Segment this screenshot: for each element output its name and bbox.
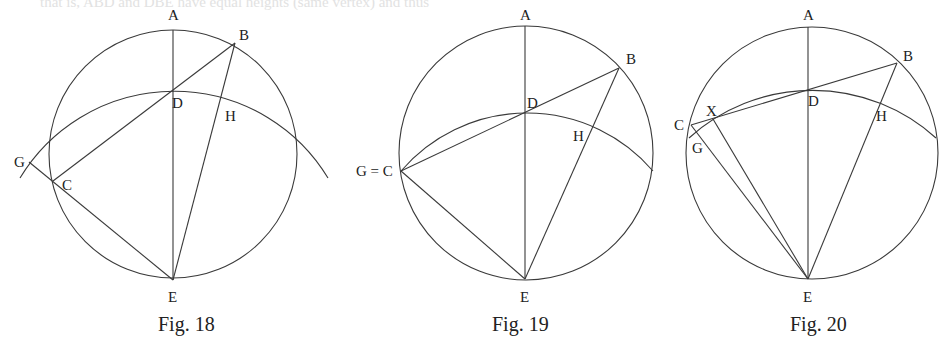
label-X: X <box>706 103 717 119</box>
caption: Fig. 18 <box>158 313 215 336</box>
line-BE <box>173 43 235 280</box>
label-E: E <box>803 289 812 305</box>
line-CE <box>691 125 808 279</box>
line-GE <box>29 162 173 280</box>
label-G: G <box>14 154 25 170</box>
label-E: E <box>520 289 529 305</box>
circle <box>399 26 653 280</box>
caption: Fig. 19 <box>492 313 549 336</box>
label-D: D <box>527 95 538 111</box>
label-A: A <box>520 7 531 23</box>
circle <box>686 27 938 279</box>
line-BE <box>808 63 897 279</box>
figure-18: A B D H G C E Fig. 18 <box>14 7 328 336</box>
line-BC <box>53 43 235 181</box>
label-C: C <box>674 117 684 133</box>
label-H: H <box>876 108 887 124</box>
label-G-equals-C: G = C <box>356 163 393 179</box>
label-A: A <box>803 7 814 23</box>
label-B: B <box>626 51 636 67</box>
label-C: C <box>62 177 72 193</box>
line-BE <box>525 68 619 279</box>
line-XE <box>713 119 808 279</box>
arc <box>401 113 653 171</box>
figure-19: A B D H G = C E Fig. 19 <box>356 7 653 336</box>
label-B: B <box>903 48 913 64</box>
label-D: D <box>172 95 183 111</box>
label-H: H <box>225 108 236 124</box>
line-BC <box>691 63 897 125</box>
label-G: G <box>692 140 703 156</box>
label-E: E <box>168 289 177 305</box>
label-H: H <box>573 128 584 144</box>
label-D: D <box>808 93 819 109</box>
label-B: B <box>239 27 249 43</box>
caption: Fig. 20 <box>790 313 847 336</box>
geometry-figures: A B D H G C E Fig. 18 A B D H G = C E Fi… <box>0 0 947 343</box>
label-A: A <box>168 7 179 23</box>
line-BC <box>401 68 619 171</box>
figure-20: A B D X H C G E Fig. 20 <box>674 7 938 336</box>
